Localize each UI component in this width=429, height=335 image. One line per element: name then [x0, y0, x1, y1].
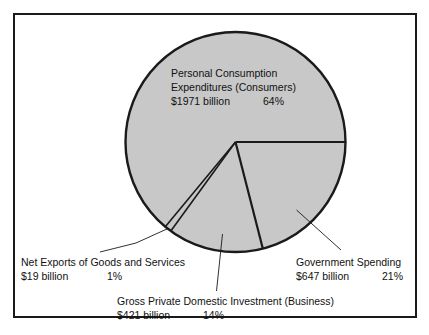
slice-percent-net-exports: 1% — [107, 269, 122, 283]
slice-value-govt: $647 billion — [296, 269, 382, 283]
slice-label-govt-line1: Government Spending — [296, 256, 401, 268]
leader-line-net-exports-outer — [100, 243, 136, 252]
leader-line-net-exports — [136, 229, 168, 244]
pie-chart-graphic — [0, 0, 429, 335]
slice-label-gpdi-line1: Gross Private Domestic Investment (Busin… — [117, 295, 334, 307]
pie-chart-figure: Personal Consumption Expenditures (Consu… — [0, 0, 429, 335]
slice-label-government-spending: Government Spending $647 billion21% — [296, 255, 403, 283]
slice-percent-govt: 21% — [382, 269, 403, 283]
slice-value-net-exports: $19 billion — [21, 269, 107, 283]
slice-label-pce-line1: Personal Consumption — [171, 67, 277, 79]
slice-label-pce-line2: Expenditures (Consumers) — [171, 80, 296, 94]
slice-percent-pce: 64% — [263, 94, 284, 108]
slice-label-gross-private-domestic-investment: Gross Private Domestic Investment (Busin… — [117, 294, 334, 322]
slice-percent-gpdi: 14% — [203, 308, 224, 322]
slice-label-net-exports: Net Exports of Goods and Services $19 bi… — [21, 255, 185, 283]
slice-label-personal-consumption: Personal Consumption Expenditures (Consu… — [171, 66, 296, 108]
slice-value-pce: $1971 billion — [171, 94, 263, 108]
slice-label-net-exports-line1: Net Exports of Goods and Services — [21, 256, 185, 268]
slice-value-gpdi: $421 billion — [117, 308, 203, 322]
